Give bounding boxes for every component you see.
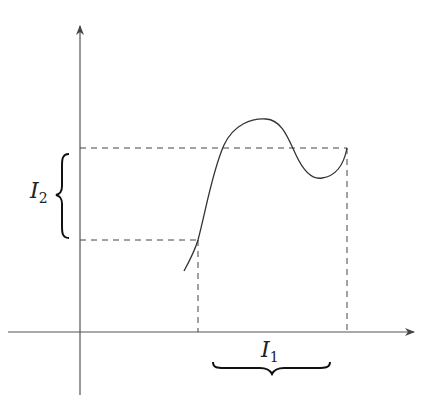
brace-i2 <box>56 154 69 238</box>
label-i2: I2 <box>30 178 48 206</box>
function-curve <box>184 119 347 271</box>
function-diagram <box>0 0 435 410</box>
label-i1: I1 <box>261 337 279 365</box>
